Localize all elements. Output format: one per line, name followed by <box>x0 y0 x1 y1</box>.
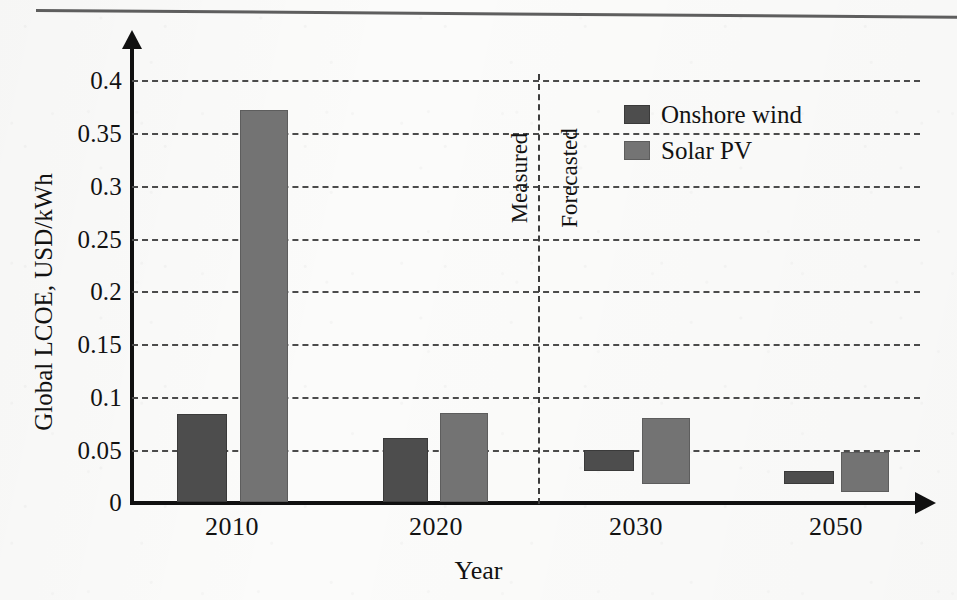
xtick-label-2030: 2030 <box>576 512 696 542</box>
bar-solar-pv-2020 <box>440 413 488 502</box>
y-axis-arrow-icon <box>122 30 142 49</box>
gridline-0.4 <box>132 80 920 82</box>
xtick-label-2020: 2020 <box>376 512 496 542</box>
ytick-label-0.25: 0.25 <box>52 227 122 252</box>
xtick-label-2050: 2050 <box>776 512 896 542</box>
legend-swatch-onshore-wind-icon <box>624 105 650 124</box>
chart-legend: Onshore wind Solar PV <box>624 96 802 168</box>
bar-onshore-wind-2030 <box>584 450 634 471</box>
bar-solar-pv-2010 <box>240 110 288 502</box>
chart-plot-area: 0.4 0.35 0.3 0.25 0.2 0.15 0.1 0.05 0 Gl… <box>0 0 957 600</box>
x-axis-arrow-icon <box>915 492 936 514</box>
figure-page: 0.4 0.35 0.3 0.25 0.2 0.15 0.1 0.05 0 Gl… <box>0 0 957 600</box>
bar-onshore-wind-2050 <box>784 471 834 484</box>
ytick-label-0.1: 0.1 <box>52 385 122 410</box>
ytick-label-0.05: 0.05 <box>52 438 122 463</box>
y-axis-title: Global LCOE, USD/kWh <box>30 162 58 442</box>
ytick-label-0.2: 0.2 <box>52 279 122 304</box>
bar-solar-pv-2030 <box>642 418 690 484</box>
ytick-label-0.4: 0.4 <box>52 68 122 93</box>
x-axis-title: Year <box>0 556 957 586</box>
legend-item-solar-pv: Solar PV <box>624 132 802 168</box>
bar-onshore-wind-2020 <box>383 438 428 502</box>
bar-solar-pv-2050 <box>841 452 889 492</box>
legend-label-onshore-wind: Onshore wind <box>661 102 802 127</box>
xtick-label-2010: 2010 <box>172 512 292 542</box>
measured-forecasted-divider <box>538 74 540 504</box>
ytick-label-0.15: 0.15 <box>52 332 122 357</box>
y-axis-line <box>130 46 134 504</box>
legend-label-solar-pv: Solar PV <box>661 138 752 163</box>
ytick-label-0.35: 0.35 <box>52 121 122 146</box>
ytick-label-0: 0 <box>52 490 122 515</box>
annotation-measured: Measured <box>507 113 533 243</box>
legend-swatch-solar-pv-icon <box>624 141 650 160</box>
bar-onshore-wind-2010 <box>177 414 227 502</box>
legend-item-onshore-wind: Onshore wind <box>624 96 802 132</box>
annotation-forecasted: Forecasted <box>557 98 583 258</box>
ytick-label-0.3: 0.3 <box>52 174 122 199</box>
